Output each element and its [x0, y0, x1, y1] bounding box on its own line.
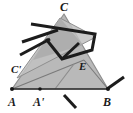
segment-thick-below-baseline — [64, 95, 76, 108]
geometry-canvas: A A' B C C' E — [0, 0, 133, 113]
geometry-figure: A A' B C C' E — [0, 0, 133, 113]
label-B: B — [102, 95, 111, 109]
label-C: C — [60, 0, 69, 14]
label-A-prime: A' — [32, 95, 45, 109]
label-E: E — [78, 60, 86, 72]
point-A-dot — [10, 87, 14, 91]
label-C-prime: C' — [11, 63, 21, 75]
point-B-dot — [106, 87, 110, 91]
label-A: A — [7, 95, 16, 109]
point-A-prime-dot — [38, 87, 42, 91]
segment-thick-at-B — [107, 77, 124, 89]
